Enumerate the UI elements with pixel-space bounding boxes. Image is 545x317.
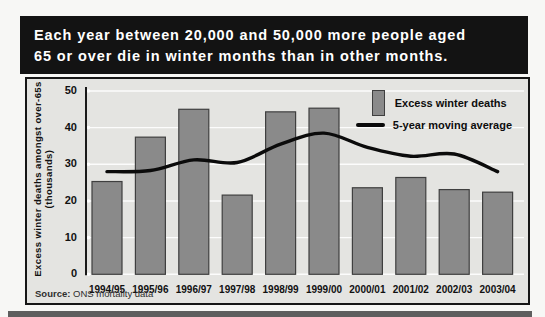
bar-1994/95 xyxy=(92,182,122,275)
gridline-dot xyxy=(87,89,91,93)
y-axis-label: Excess winter deaths amongst over-65s (t… xyxy=(32,79,54,279)
bar-1997/98 xyxy=(222,195,252,274)
gridline-dot xyxy=(87,199,91,203)
bar-1996/97 xyxy=(179,109,209,274)
y-axis-label-line-2: (thousands) xyxy=(43,79,54,279)
gridline-dot xyxy=(87,273,91,277)
line-swatch-icon xyxy=(356,123,385,127)
x-tick-1997/98: 1997/98 xyxy=(219,284,255,295)
x-tick-2001/02: 2001/02 xyxy=(393,284,429,295)
legend-entry-bars: Excess winter deaths xyxy=(372,90,512,116)
x-tick-1996/97: 1996/97 xyxy=(176,284,212,295)
source-label: Source: xyxy=(35,288,70,299)
chart-title-line-2: 65 or over die in winter months than in … xyxy=(34,46,520,67)
y-axis-label-line-1: Excess winter deaths amongst over-65s xyxy=(32,79,43,279)
x-tick-2003/04: 2003/04 xyxy=(480,284,516,295)
x-tick-2002/03: 2002/03 xyxy=(436,284,472,295)
bar-2001/02 xyxy=(396,177,426,274)
y-tick-20: 20 xyxy=(37,194,77,206)
x-tick-1998/99: 1998/99 xyxy=(263,284,299,295)
chart-title-band: Each year between 20,000 and 50,000 more… xyxy=(20,16,528,74)
gridline-dot xyxy=(87,126,91,130)
bar-swatch-icon xyxy=(372,90,385,116)
bar-2002/03 xyxy=(439,190,469,275)
y-tick-50: 50 xyxy=(37,84,77,96)
gridline-dot xyxy=(87,162,91,166)
y-tick-40: 40 xyxy=(37,121,77,133)
chart-plot-container: Excess winter deaths amongst over-65s (t… xyxy=(25,77,530,305)
x-tick-1999/00: 1999/00 xyxy=(306,284,342,295)
chart-legend: Excess winter deaths 5-year moving avera… xyxy=(372,90,512,131)
gridline-dot xyxy=(87,236,91,240)
legend-label-bars: Excess winter deaths xyxy=(395,97,507,109)
source-text: ONS mortality data xyxy=(70,288,153,299)
legend-entry-line: 5-year moving average xyxy=(372,119,512,131)
bar-1995/96 xyxy=(135,137,165,274)
next-section-edge xyxy=(8,311,532,317)
y-tick-30: 30 xyxy=(37,157,77,169)
source-note: Source: ONS mortality data xyxy=(35,288,153,299)
bar-2003/04 xyxy=(483,192,513,274)
y-tick-10: 10 xyxy=(37,231,77,243)
y-tick-0: 0 xyxy=(37,267,77,279)
bar-2000/01 xyxy=(352,188,382,275)
chart-title-line-1: Each year between 20,000 and 50,000 more… xyxy=(34,25,520,46)
bar-1998/99 xyxy=(266,112,296,274)
x-tick-2000/01: 2000/01 xyxy=(349,284,385,295)
scanned-chart-page: Each year between 20,000 and 50,000 more… xyxy=(0,0,545,317)
legend-label-line: 5-year moving average xyxy=(393,119,512,131)
